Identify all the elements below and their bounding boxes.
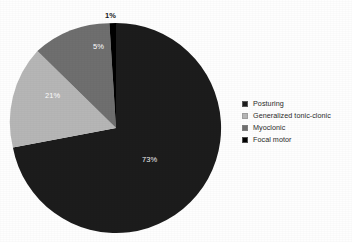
legend-item-focal-motor[interactable]: Focal motor <box>242 134 350 146</box>
legend-label-generalized-tonic-clonic: Generalized tonic-clonic <box>253 112 331 119</box>
chart-legend: Posturing Generalized tonic-clonic Myocl… <box>242 98 350 146</box>
legend-swatch-icon-focal-motor <box>242 137 248 143</box>
legend-swatch-icon-generalized-tonic-clonic <box>242 113 248 119</box>
slice-label-posturing: 73% <box>142 156 157 164</box>
slice-label-generalized-tonic-clonic: 21% <box>45 92 60 100</box>
legend-label-focal-motor: Focal motor <box>253 136 292 143</box>
legend-item-generalized-tonic-clonic[interactable]: Generalized tonic-clonic <box>242 110 350 122</box>
legend-label-posturing: Posturing <box>253 100 284 107</box>
legend-item-myoclonic[interactable]: Myoclonic <box>242 122 350 134</box>
pie-chart-figure: 1% 5% 21% 73% Posturing Generalized toni… <box>0 0 352 242</box>
pie-chart-svg <box>8 20 224 236</box>
legend-label-myoclonic: Myoclonic <box>253 124 285 131</box>
slice-label-focal-motor: 1% <box>105 12 116 20</box>
slice-label-myoclonic: 5% <box>93 43 104 51</box>
legend-item-posturing[interactable]: Posturing <box>242 98 350 110</box>
chart-plot-area: 1% 5% 21% 73% <box>0 0 235 242</box>
legend-swatch-icon-myoclonic <box>242 125 248 131</box>
legend-swatch-icon-posturing <box>242 101 248 107</box>
